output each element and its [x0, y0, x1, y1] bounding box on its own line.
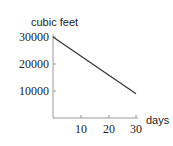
y-tick-label-30000: 30000: [19, 30, 49, 44]
x-axis-label: days: [146, 114, 170, 126]
x-tick-label-30: 30: [130, 122, 142, 136]
data-line: [53, 37, 136, 94]
y-tick-label-10000: 10000: [19, 84, 49, 98]
x-tick-label-10: 10: [75, 122, 87, 136]
x-tick-label-20: 20: [103, 122, 115, 136]
chart: 30000 20000 10000 10 20 30 cubic feet da…: [0, 0, 173, 146]
y-axis-label: cubic feet: [31, 16, 78, 28]
y-tick-label-20000: 20000: [19, 57, 49, 71]
